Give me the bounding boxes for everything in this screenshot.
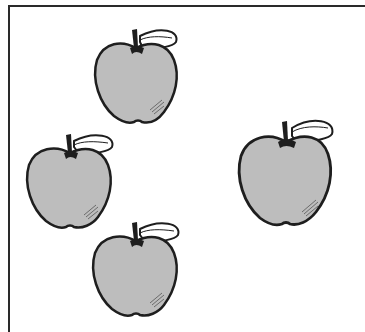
- apple-right: [236, 112, 336, 232]
- apple-top: [92, 20, 182, 128]
- apple-icon: [236, 112, 336, 232]
- apple-bottom: [90, 213, 182, 321]
- apple-icon: [90, 213, 182, 321]
- apple-icon: [92, 20, 182, 128]
